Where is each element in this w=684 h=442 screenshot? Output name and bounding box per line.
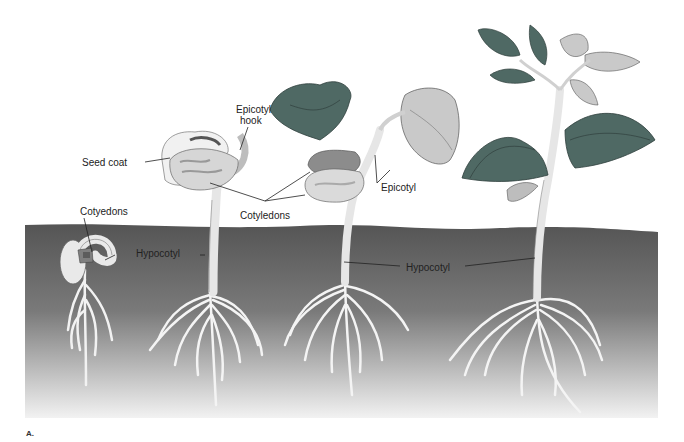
label-seed-coat: Seed coat — [82, 157, 127, 168]
label-epicotyl-hook-line2: hook — [240, 115, 262, 126]
label-cotyedons: Cotyedons — [80, 206, 128, 217]
label-epicotyl: Epicotyl — [381, 182, 416, 193]
label-hypocotyl: Hypocotyl — [406, 262, 450, 273]
seedling-diagram — [0, 0, 684, 442]
label-epicotyl-hook-line1: Epicotyl — [236, 104, 271, 115]
soil — [25, 224, 658, 418]
label-hypocotyl-stage1: Hypocotyl — [136, 248, 180, 259]
figure-letter: A. — [26, 429, 34, 438]
label-cotyledons: Cotyledons — [240, 210, 290, 221]
